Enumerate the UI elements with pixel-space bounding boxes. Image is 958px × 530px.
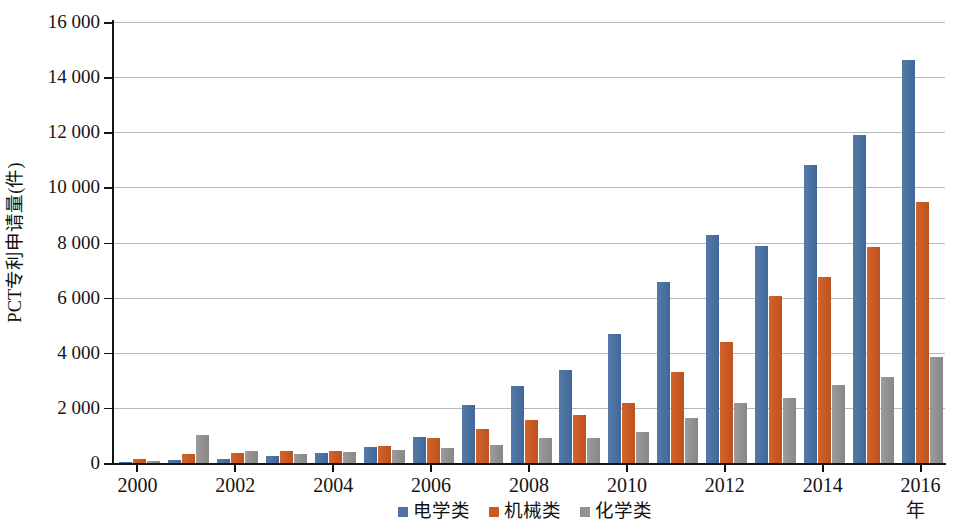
bar: [622, 403, 635, 463]
y-tick: 16 000: [0, 12, 100, 31]
x-tick-mark: [822, 463, 824, 472]
y-tick: 2 000: [0, 398, 100, 417]
legend-swatch-icon: [580, 507, 590, 517]
bar-group: [706, 22, 747, 463]
y-tick-label: 16 000: [6, 12, 100, 31]
bar: [867, 247, 880, 463]
bar: [231, 453, 244, 463]
bar: [706, 235, 719, 463]
bar-group: [315, 22, 356, 463]
y-tick: 4 000: [0, 343, 100, 362]
x-tick-label: 2014: [780, 473, 866, 497]
bar: [671, 372, 684, 463]
bar-group: [413, 22, 454, 463]
bar: [364, 447, 377, 463]
bar: [427, 438, 440, 463]
bar: [720, 342, 733, 463]
y-tick-label: 10 000: [6, 177, 100, 196]
y-tick-label: 8 000: [6, 233, 100, 252]
y-tick: 6 000: [0, 288, 100, 307]
bar: [294, 454, 307, 463]
y-tick: 8 000: [0, 233, 100, 252]
bar: [636, 432, 649, 463]
bar: [573, 415, 586, 463]
pct-patent-application-bar-chart: PCT专利申请量(件) 02 0004 0006 0008 00010 0001…: [0, 0, 958, 530]
legend-label: 电学类: [413, 500, 470, 522]
y-tick: 12 000: [0, 122, 100, 141]
bar: [769, 296, 782, 463]
bar-group: [657, 22, 698, 463]
bar: [853, 135, 866, 463]
legend-label: 化学类: [595, 500, 652, 522]
y-tick: 0: [0, 453, 100, 472]
legend-swatch-icon: [489, 507, 499, 517]
y-axis-line: [112, 20, 114, 465]
x-tick-mark: [430, 463, 432, 472]
bar: [280, 451, 293, 463]
y-tick-label: 6 000: [6, 288, 100, 307]
bar-group: [511, 22, 552, 463]
x-tick-mark: [234, 463, 236, 472]
bar-group: [364, 22, 405, 463]
bar: [462, 405, 475, 463]
legend-swatch-icon: [398, 507, 408, 517]
bar: [881, 377, 894, 463]
bar: [587, 438, 600, 463]
bar: [266, 456, 279, 463]
legend-item[interactable]: 机械类: [489, 500, 561, 522]
x-tick-label: 2000: [94, 473, 180, 497]
bar: [657, 282, 670, 463]
bar: [245, 451, 258, 463]
x-tick-mark: [332, 463, 334, 472]
bar: [930, 357, 943, 463]
legend-item[interactable]: 化学类: [580, 500, 652, 522]
bar: [539, 438, 552, 463]
bar-group: [462, 22, 503, 463]
bar-group: [559, 22, 600, 463]
bar: [413, 437, 426, 463]
x-tick-label: 2006: [388, 473, 474, 497]
y-tick: 10 000: [0, 177, 100, 196]
x-tick-label: 2012: [682, 473, 768, 497]
bar: [608, 334, 621, 463]
bar: [916, 202, 929, 463]
bar-group: [804, 22, 845, 463]
bar: [818, 277, 831, 463]
bar: [685, 418, 698, 463]
legend-label: 机械类: [504, 500, 561, 522]
x-tick-label: 2016: [878, 473, 958, 497]
bar: [182, 454, 195, 463]
bar-group: [266, 22, 307, 463]
legend-item[interactable]: 电学类: [398, 500, 470, 522]
y-tick-label: 4 000: [6, 343, 100, 362]
plot-area: [113, 22, 945, 463]
bar: [343, 452, 356, 463]
x-tick-mark: [920, 463, 922, 472]
bar: [755, 246, 768, 463]
bar-group: [119, 22, 160, 463]
bar: [378, 446, 391, 463]
x-tick-label: 2002: [192, 473, 278, 497]
bar-group: [755, 22, 796, 463]
x-tick-label: 2010: [584, 473, 670, 497]
bar: [490, 445, 503, 463]
bar: [441, 448, 454, 463]
x-axis-title: 年: [906, 500, 925, 522]
bar: [315, 453, 328, 463]
bar: [525, 420, 538, 463]
bar-group: [853, 22, 894, 463]
bar: [804, 165, 817, 463]
bar: [902, 60, 915, 463]
bar: [392, 450, 405, 463]
x-tick-mark: [626, 463, 628, 472]
x-tick-mark: [528, 463, 530, 472]
x-tick-label: 2004: [290, 473, 376, 497]
bar-group: [168, 22, 209, 463]
bar-group: [608, 22, 649, 463]
x-tick-mark: [724, 463, 726, 472]
bar-group: [217, 22, 258, 463]
y-tick-label: 14 000: [6, 67, 100, 86]
y-tick-label: 2 000: [6, 398, 100, 417]
bar: [476, 429, 489, 463]
bar: [559, 370, 572, 463]
